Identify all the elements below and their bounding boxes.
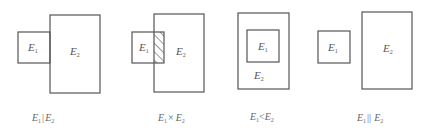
e1-label: E1: [327, 41, 338, 54]
caption-exclusive: E1|E2: [31, 112, 54, 124]
e1-label: E1: [257, 40, 268, 53]
e1-label: E1: [27, 41, 38, 54]
e2-label: E2: [175, 45, 186, 58]
e2-label: E2: [382, 42, 393, 55]
diagram-disjoint: E1 E2 E1||E2: [318, 12, 412, 124]
overlap-hatch: [154, 32, 164, 63]
diagram-exclusive: E1 E2 E1|E2: [18, 15, 100, 124]
e1-label: E1: [138, 41, 149, 54]
caption-overlap: E1×E2: [157, 112, 185, 124]
e2-label: E2: [69, 45, 80, 58]
diagram-contained: E1 E2 E1<E2: [238, 13, 289, 123]
caption-contained: E1<E2: [249, 111, 274, 123]
e2-label: E2: [253, 69, 264, 82]
set-relations-diagram: E1 E2 E1|E2 E1 E2 E1×E2 E1 E2 E1<E2 E1 E…: [0, 0, 430, 132]
caption-disjoint: E1||E2: [356, 112, 383, 124]
diagram-overlap: E1 E2 E1×E2: [132, 14, 204, 124]
